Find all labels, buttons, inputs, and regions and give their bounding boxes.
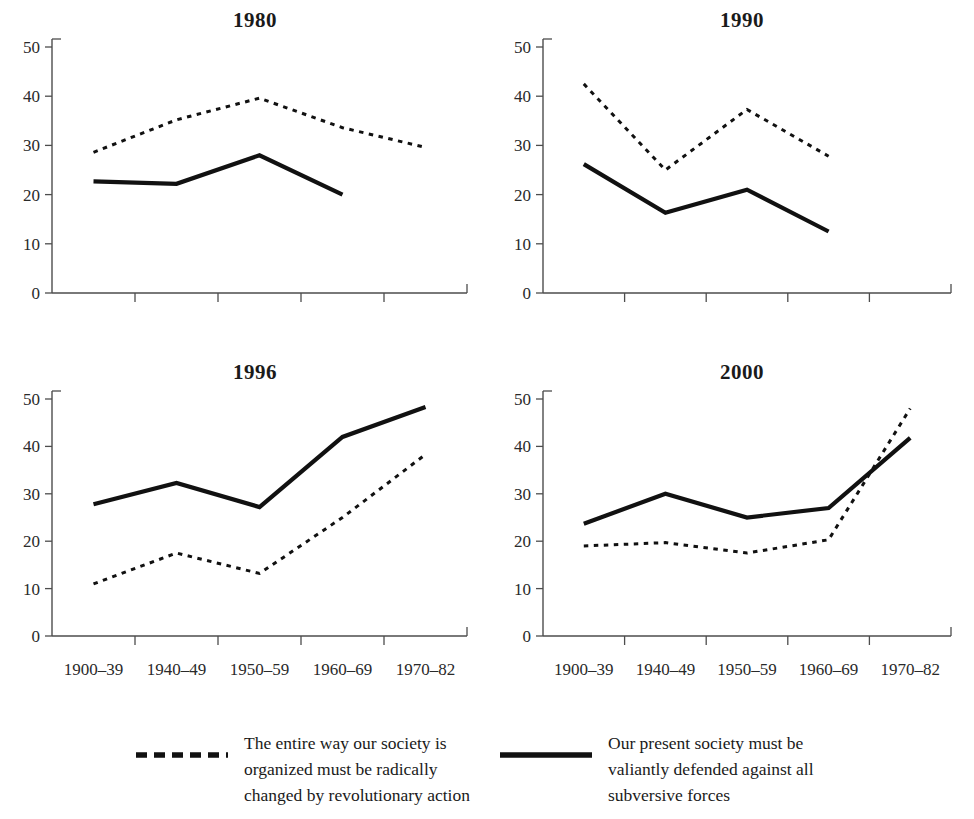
legend-label-dashed: The entire way our society is organized … xyxy=(244,730,504,808)
y-tick-label: 10 xyxy=(23,580,40,599)
plot-area-1996: 01020304050 xyxy=(20,360,490,650)
legend-entry-solid: Our present society must be valiantly de… xyxy=(500,718,840,813)
x-tick-label: 1970–82 xyxy=(869,660,951,680)
data-series-solid xyxy=(94,407,426,507)
y-tick-label: 40 xyxy=(23,437,40,456)
chart-panel-1980: 1980 01020304050 xyxy=(20,8,490,308)
y-tick-label: 20 xyxy=(514,186,531,205)
y-tick-label: 40 xyxy=(23,87,40,106)
y-tick-label: 50 xyxy=(514,390,531,409)
y-tick-label: 50 xyxy=(514,38,531,57)
x-axis-labels-left-column: 1900–391940–491950–591960–691970–82 xyxy=(20,660,490,686)
legend-label-solid: Our present society must be valiantly de… xyxy=(608,730,868,808)
legend-key-dashed-line xyxy=(136,745,228,753)
figure-root: 1980 01020304050 1990 01020304050 1996 0… xyxy=(0,0,974,819)
y-tick-label: 20 xyxy=(23,532,40,551)
data-series-dashed xyxy=(584,84,829,170)
legend-dash-swatch xyxy=(136,751,228,759)
legend-label-solid-line-1: Our present society must be xyxy=(608,730,868,756)
x-tick-label: 1960–69 xyxy=(788,660,870,680)
data-series-solid xyxy=(584,438,910,524)
x-tick-label: 1950–59 xyxy=(218,660,301,680)
y-tick-label: 10 xyxy=(23,235,40,254)
x-tick-label: 1950–59 xyxy=(706,660,788,680)
data-series-solid xyxy=(584,164,829,231)
x-tick-label: 1940–49 xyxy=(135,660,218,680)
legend-label-solid-line-2: valiantly defended against all xyxy=(608,756,868,782)
y-tick-label: 10 xyxy=(514,235,531,254)
chart-legend: The entire way our society is organized … xyxy=(0,718,974,819)
legend-label-dashed-line-2: organized must be radically xyxy=(244,756,504,782)
x-tick-label: 1940–49 xyxy=(625,660,707,680)
y-tick-label: 20 xyxy=(23,186,40,205)
y-tick-label: 30 xyxy=(23,136,40,155)
x-axis-labels-right-column: 1900–391940–491950–591960–691970–82 xyxy=(510,660,974,686)
legend-key-solid-line xyxy=(500,745,592,753)
x-tick-label: 1960–69 xyxy=(301,660,384,680)
legend-label-solid-line-3: subversive forces xyxy=(608,782,868,808)
plot-area-1990: 01020304050 xyxy=(510,8,974,308)
plot-area-2000: 01020304050 xyxy=(510,360,974,650)
y-tick-label: 50 xyxy=(23,390,40,409)
y-tick-label: 0 xyxy=(523,627,532,646)
legend-label-dashed-line-3: changed by revolutionary action xyxy=(244,782,504,808)
data-series-dashed xyxy=(94,454,426,583)
x-tick-label: 1970–82 xyxy=(384,660,467,680)
legend-solid-swatch xyxy=(500,751,592,759)
y-tick-label: 40 xyxy=(514,87,531,106)
x-tick-label: 1900–39 xyxy=(52,660,135,680)
y-tick-label: 0 xyxy=(523,284,532,303)
y-tick-label: 30 xyxy=(23,485,40,504)
data-series-solid xyxy=(94,155,343,194)
legend-entry-dashed: The entire way our society is organized … xyxy=(136,718,466,813)
chart-panel-1996: 1996 01020304050 xyxy=(20,360,490,650)
y-tick-label: 30 xyxy=(514,136,531,155)
x-tick-label: 1900–39 xyxy=(543,660,625,680)
y-tick-label: 20 xyxy=(514,532,531,551)
legend-label-dashed-line-1: The entire way our society is xyxy=(244,730,504,756)
y-tick-label: 10 xyxy=(514,580,531,599)
y-tick-label: 0 xyxy=(32,627,41,646)
y-tick-label: 50 xyxy=(23,38,40,57)
plot-area-1980: 01020304050 xyxy=(20,8,490,308)
y-tick-label: 0 xyxy=(32,284,41,303)
y-tick-label: 30 xyxy=(514,485,531,504)
chart-panel-1990: 1990 01020304050 xyxy=(510,8,974,308)
chart-panel-2000: 2000 01020304050 xyxy=(510,360,974,650)
y-tick-label: 40 xyxy=(514,437,531,456)
data-series-dashed xyxy=(94,98,426,152)
